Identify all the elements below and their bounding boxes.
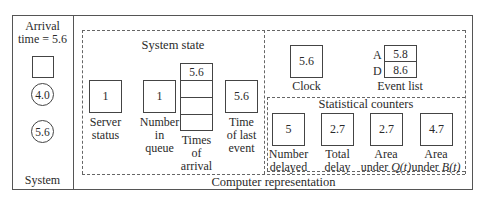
arrival-time-cell-3 [180,97,213,115]
statistical-counters-title: Statistical counters [267,97,465,111]
event-list-value-a: 5.8 [384,45,417,62]
server-square [32,56,54,78]
times-of-arrival-label: Times of arrival [171,134,222,173]
queue-circle-1: 4.0 [31,83,54,106]
server-status-box: 1 [89,80,122,113]
time-of-last-event-label: Time of last event [216,116,267,155]
event-list-key-a: A [373,48,382,63]
event-list-value-d: 8.6 [384,61,417,78]
system-label: System [12,174,73,187]
number-delayed-box: 5 [272,113,305,146]
arrival-time-cell-1: 5.6 [180,63,213,81]
time-of-last-event-box: 5.6 [225,80,258,113]
clock-label: Clock [281,80,332,93]
number-in-queue-box: 1 [143,80,176,113]
event-list-label: Event list [365,80,435,93]
computer-representation-label: Computer representation [74,175,473,189]
event-list-key-d: D [373,64,382,79]
area-under-b-label: Area under B(t) [406,148,466,174]
queue-circle-2: 5.6 [31,120,54,143]
area-under-q-box: 2.7 [370,113,403,146]
dashed-border-top [82,30,465,31]
arrival-time-label: Arrival time = 5.6 [12,20,73,46]
system-divider [73,15,74,190]
arrival-time-cell-2 [180,80,213,98]
system-state-title: System state [82,38,264,52]
server-status-label: Server status [80,116,131,142]
arrival-time-cell-4 [180,114,213,131]
number-delayed-label: Number delayed [263,148,314,174]
clock-box: 5.6 [290,45,323,78]
area-under-b-box: 4.7 [420,113,453,146]
total-delay-box: 2.7 [321,113,354,146]
